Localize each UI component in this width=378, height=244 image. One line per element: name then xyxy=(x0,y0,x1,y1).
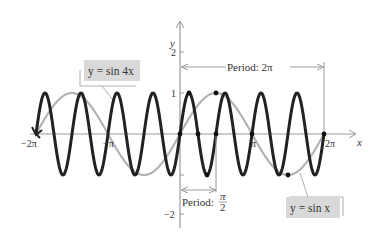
y-tick-2: 2 xyxy=(171,47,176,58)
sine-graph: Period: 2π Period: π 2 y x 2 1 −2 −2π −π… xyxy=(0,0,378,244)
marked-point xyxy=(214,132,219,137)
y-tick-neg2: −2 xyxy=(164,209,175,220)
x-axis-label: x xyxy=(356,136,362,148)
x-tick-pi: π xyxy=(251,138,256,149)
marked-point xyxy=(250,132,255,137)
marked-point xyxy=(322,132,327,137)
sin-x-label: y = sin x xyxy=(286,173,343,218)
svg-text:y = sin x: y = sin x xyxy=(290,202,330,215)
period-pi2-denominator: 2 xyxy=(220,201,226,213)
marked-point xyxy=(214,91,219,96)
marked-point xyxy=(178,132,183,137)
marked-point xyxy=(286,173,291,178)
x-tick-neg2pi: −2π xyxy=(21,138,37,149)
x-tick-2pi: 2π xyxy=(325,138,335,149)
marked-point xyxy=(205,173,210,178)
marked-point xyxy=(187,91,192,96)
period-pi2-label: Period: xyxy=(182,196,214,208)
y-tick-1: 1 xyxy=(171,88,176,99)
period-2pi-label: Period: 2π xyxy=(227,61,273,73)
x-tick-negpi: −π xyxy=(103,138,114,149)
marked-point xyxy=(196,132,201,137)
sin-4x-label: y = sin 4x xyxy=(80,60,140,99)
svg-text:y = sin 4x: y = sin 4x xyxy=(88,65,134,78)
